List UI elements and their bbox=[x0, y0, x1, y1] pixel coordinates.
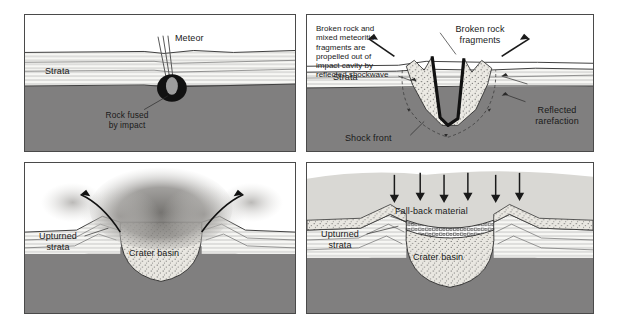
impact-crater-figure: Strata Meteor Rock fused by impact bbox=[0, 0, 618, 331]
panel-fallback-stage: Fall-back material Upturned strata Crate… bbox=[306, 162, 594, 314]
caption-broken-rock-propelled: Broken rock and mixed meteoritic fragmen… bbox=[316, 24, 388, 80]
panel-excavation-stage: Broken rock and mixed meteoritic fragmen… bbox=[306, 14, 594, 152]
panel-ejecta-cloud-stage: Upturned strata Crater basin bbox=[24, 162, 296, 314]
panel-impact-stage: Strata Meteor Rock fused by impact bbox=[24, 14, 296, 152]
